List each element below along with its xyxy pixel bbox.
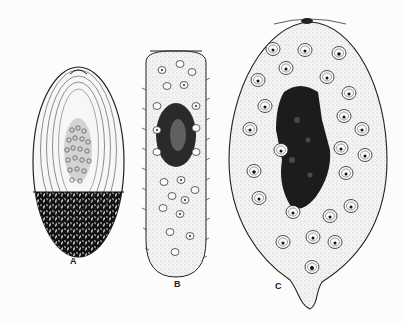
panel-label-b: B	[174, 279, 181, 289]
panel-label-a: A	[70, 256, 77, 266]
panel-a-organism	[30, 67, 130, 262]
panel-label-c: C	[275, 281, 282, 291]
panel-c-organism	[229, 18, 387, 309]
illustration-canvas	[0, 0, 404, 322]
illustration-figure: A B C	[0, 0, 404, 322]
panel-b-organism	[142, 51, 210, 277]
